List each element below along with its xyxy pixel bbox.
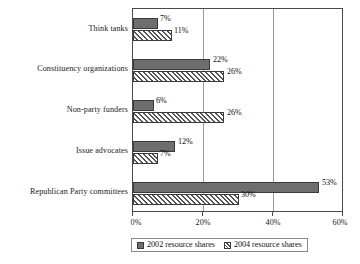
value-label-2004-non-party-funders: 26%	[227, 109, 242, 117]
value-label-2002-issue-advocates: 12%	[178, 138, 193, 146]
bar-2004-non-party-funders	[133, 112, 224, 123]
xtick-label-60: 60%	[333, 219, 348, 227]
legend-item-2004: 2004 resource shares	[224, 241, 302, 249]
value-label-2004-think-tanks: 11%	[174, 27, 189, 35]
gridline-40	[273, 9, 274, 211]
xtick-label-0: 0%	[131, 219, 142, 227]
horizontal-bar-chart: Think tanks Constituency organizations N…	[0, 0, 360, 264]
category-label-issue-advocates: Issue advocates	[76, 147, 128, 155]
xtick-mark-0	[132, 212, 133, 216]
bar-2002-republican-party-committees	[133, 182, 319, 193]
bar-2004-constituency-organizations	[133, 71, 224, 82]
category-label-constituency-organizations: Constituency organizations	[37, 65, 128, 73]
value-label-2002-non-party-funders: 6%	[156, 97, 167, 105]
legend-swatch-2002-icon	[137, 242, 144, 249]
bar-2004-republican-party-committees	[133, 194, 239, 205]
category-label-think-tanks: Think tanks	[88, 25, 128, 33]
xtick-mark-60	[342, 212, 343, 216]
bar-2004-issue-advocates	[133, 153, 158, 164]
bar-2004-think-tanks	[133, 30, 172, 41]
gridline-20	[203, 9, 204, 211]
bar-2002-non-party-funders	[133, 100, 154, 111]
value-label-2002-republican-party-committees: 53%	[322, 179, 337, 187]
category-label-republican-party-committees: Republican Party committees	[30, 188, 128, 196]
xtick-label-40: 40%	[266, 219, 281, 227]
category-label-non-party-funders: Non-party funders	[67, 106, 128, 114]
legend-label-2002: 2002 resource shares	[147, 241, 215, 249]
value-label-2002-constituency-organizations: 22%	[213, 56, 228, 64]
legend-label-2004: 2004 resource shares	[234, 241, 302, 249]
legend-swatch-2004-icon	[224, 242, 231, 249]
xtick-mark-20	[202, 212, 203, 216]
chart-legend: 2002 resource shares 2004 resource share…	[131, 238, 308, 252]
bar-2002-constituency-organizations	[133, 59, 210, 70]
xtick-label-20: 20%	[196, 219, 211, 227]
legend-item-2002: 2002 resource shares	[137, 241, 215, 249]
value-label-2004-issue-advocates: 7%	[160, 150, 171, 158]
value-label-2004-constituency-organizations: 26%	[227, 68, 242, 76]
bar-2002-think-tanks	[133, 18, 158, 29]
xtick-mark-40	[272, 212, 273, 216]
value-label-2004-republican-party-committees: 30%	[241, 191, 256, 199]
value-label-2002-think-tanks: 7%	[160, 15, 171, 23]
